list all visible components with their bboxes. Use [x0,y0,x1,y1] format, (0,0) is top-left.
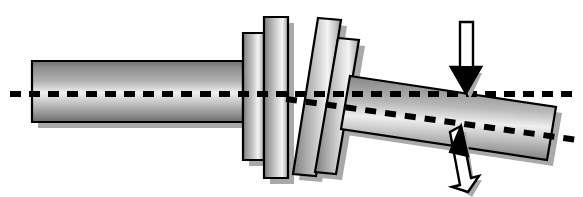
collar-plate-2 [264,17,288,178]
input-shaft [32,61,243,122]
shaft-misalignment-figure [0,0,583,197]
figure-canvas [0,0,583,197]
